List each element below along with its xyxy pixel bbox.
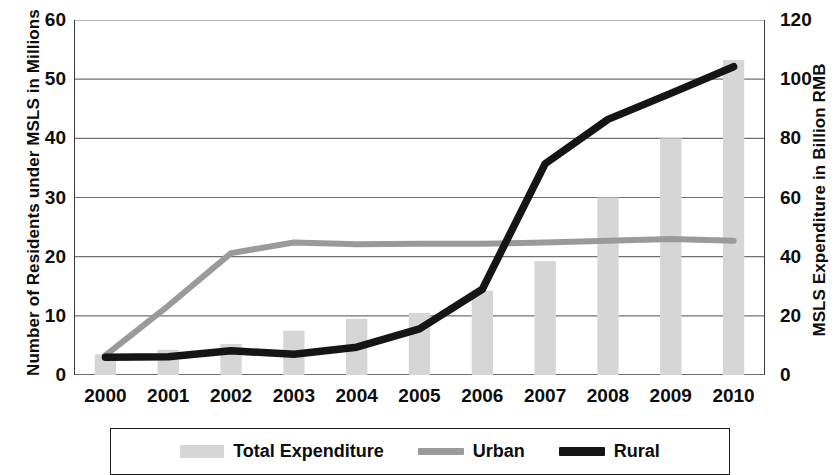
x-axis-tick-label: 2000: [74, 385, 137, 411]
plot-area: [74, 20, 765, 375]
x-axis-tick-labels: 2000200120022003200420052006200720082009…: [74, 385, 765, 411]
x-axis-tick-label: 2009: [639, 385, 702, 411]
x-axis-tick-label: 2003: [262, 385, 325, 411]
bar-total-expenditure: [472, 291, 493, 375]
legend-label-urban: Urban: [473, 441, 525, 462]
x-axis-tick-label: 2001: [137, 385, 200, 411]
y-axis-left-tick-label: 50: [26, 69, 66, 88]
x-axis-tick-label: 2005: [388, 385, 451, 411]
legend-bar-swatch-icon: [180, 445, 224, 458]
y-axis-right-tick-label: 60: [780, 188, 824, 207]
y-axis-right-ticks: 120100806040200: [780, 0, 830, 475]
y-axis-left-tick-label: 10: [26, 306, 66, 325]
y-axis-right-tick-label: 20: [780, 306, 824, 325]
bar-total-expenditure: [597, 198, 618, 376]
y-axis-left-tick-label: 40: [26, 128, 66, 147]
legend-label-total-expenditure: Total Expenditure: [233, 441, 384, 462]
chart-figure: Number of Residents under MSLS in Millio…: [0, 0, 834, 475]
y-axis-left-tick-label: 0: [26, 365, 66, 384]
y-axis-left-tick-label: 30: [26, 188, 66, 207]
y-axis-left-tick-label: 20: [26, 247, 66, 266]
plot-svg: [74, 20, 765, 375]
x-axis-tick-label: 2002: [200, 385, 263, 411]
y-axis-right-tick-label: 100: [780, 69, 824, 88]
y-axis-left-ticks: 6050403020100: [22, 0, 66, 475]
chart-legend: Total Expenditure Urban Rural: [110, 428, 730, 475]
y-axis-left-tick-label: 60: [26, 10, 66, 29]
y-axis-right-tick-label: 0: [780, 365, 824, 384]
bar-total-expenditure: [534, 261, 555, 375]
legend-item-total-expenditure: Total Expenditure: [180, 441, 384, 462]
x-axis-tick-label: 2010: [702, 385, 765, 411]
legend-line-swatch-rural-icon: [559, 447, 605, 456]
x-axis-tick-label: 2007: [514, 385, 577, 411]
legend-item-rural: Rural: [559, 441, 660, 462]
x-axis-tick-label: 2006: [451, 385, 514, 411]
legend-line-swatch-urban-icon: [418, 448, 464, 455]
legend-label-rural: Rural: [614, 441, 660, 462]
y-axis-right-tick-label: 120: [780, 10, 824, 29]
x-axis-tick-label: 2004: [325, 385, 388, 411]
y-axis-right-tick-label: 80: [780, 128, 824, 147]
bar-total-expenditure: [723, 60, 744, 375]
legend-item-urban: Urban: [418, 441, 525, 462]
y-axis-right-tick-label: 40: [780, 247, 824, 266]
x-axis-tick-label: 2008: [577, 385, 640, 411]
bar-total-expenditure: [660, 138, 681, 375]
